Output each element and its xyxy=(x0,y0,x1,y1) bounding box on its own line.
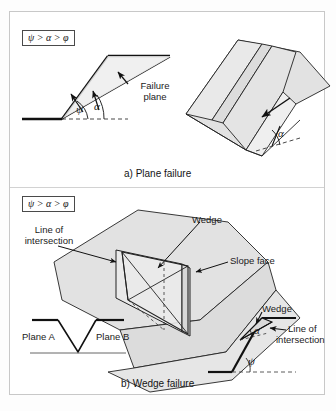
loi-label-line1: Line of xyxy=(35,224,64,235)
angle-label-psi-wedge: ψ xyxy=(248,356,255,367)
figure-root: ψ > α > φ Failure plane ψ α α a) Plane f… xyxy=(0,0,336,411)
wedge-failure-3d xyxy=(54,210,300,392)
slope-face-label: Slope face xyxy=(230,255,275,266)
failure-plane-label-line1: Failure xyxy=(140,80,169,91)
condition-formula-wedge: ψ > α > φ xyxy=(22,196,75,212)
loi-label-section-line2: intersection xyxy=(276,334,325,345)
v-notch-outline xyxy=(58,320,96,352)
caption-wedge-failure: b) Wedge failure xyxy=(121,378,194,389)
wedge-plane-b xyxy=(182,264,190,336)
plane-b-label: Plane B xyxy=(96,331,129,342)
wedge-label-3d: Wedge xyxy=(192,214,222,225)
angle-label-alpha-wedge: α xyxy=(254,325,260,336)
angle-label-alpha-3d: α xyxy=(278,128,284,139)
loi-label-section-line1: Line of xyxy=(288,323,317,334)
plane-failure-3d xyxy=(186,40,330,156)
plane-a-label: Plane A xyxy=(22,331,55,342)
failure-plane-label: Failure plane xyxy=(128,80,182,102)
angle-label-alpha-plane: α xyxy=(94,101,100,112)
loi-label-line2: intersection xyxy=(25,235,74,246)
caption-plane-failure: a) Plane failure xyxy=(124,168,191,179)
failure-plane-label-line2: plane xyxy=(143,91,166,102)
condition-formula-plane: ψ > α > φ xyxy=(22,30,75,46)
wedge-label-section: Wedge xyxy=(262,303,292,314)
line-of-intersection-label-3d: Line of intersection xyxy=(14,224,84,246)
angle-label-psi-plane: ψ xyxy=(76,104,83,115)
